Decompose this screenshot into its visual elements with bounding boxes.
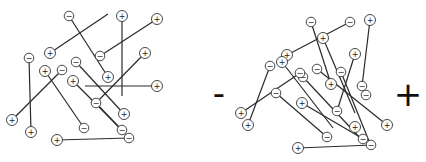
svg-text:−: − [314,65,321,74]
right-negative-charge-icon: − [357,81,367,91]
left-positive-charge-icon: + [103,72,114,83]
svg-text:−: − [26,54,33,63]
left-panel-bonds [12,14,157,140]
right-positive-charge-icon: + [350,49,361,60]
svg-text:−: − [97,52,104,61]
svg-text:+: + [54,136,61,145]
svg-text:+: + [352,123,359,132]
right-negative-charge-icon: − [322,132,332,142]
right-negative-charge-icon: − [271,88,281,98]
left-negative-charge-icon: − [64,11,74,21]
left-positive-charge-icon: + [119,109,130,120]
svg-text:+: + [42,67,49,76]
svg-text:+: + [47,49,54,58]
svg-text:−: − [297,69,304,78]
right-negative-charge-icon: − [265,61,275,71]
right-negative-charge-icon: − [306,17,316,27]
right-bond-line [282,62,333,128]
svg-text:+: + [28,128,35,137]
right-positive-charge-icon: + [326,79,337,90]
right-positive-charge-icon: + [236,108,247,119]
svg-text:+: + [245,121,252,130]
svg-text:+: + [142,49,149,58]
right-bond-line [298,145,372,148]
svg-text:+: + [154,15,161,24]
left-bond-line [29,58,31,132]
left-negative-charge-icon: − [91,98,101,108]
right-positive-charge-icon: + [382,120,393,131]
right-negative-charge-icon: − [332,106,342,116]
left-negative-charge-icon: − [95,51,105,61]
left-positive-charge-icon: + [152,81,163,92]
left-positive-charge-icon: + [140,48,151,59]
right-bond-line [362,20,370,86]
right-negative-charge-icon: − [312,64,322,74]
left-positive-charge-icon: + [40,66,51,77]
left-bond-line [12,70,62,120]
left-positive-charge-icon: + [52,135,63,146]
svg-text:−: − [308,18,315,27]
svg-text:−: − [126,134,133,143]
left-negative-charge-icon: − [24,53,34,63]
negative-terminal-label: - [213,73,225,113]
left-negative-charge-icon: − [124,133,134,143]
left-negative-charge-icon: − [57,65,67,75]
right-bond-line [311,22,331,84]
right-bond-line [337,54,355,111]
svg-text:+: + [119,12,126,21]
right-negative-charge-icon: − [295,68,305,78]
right-positive-charge-icon: + [365,15,376,26]
svg-text:−: − [324,133,331,142]
right-negative-charge-icon: − [361,90,371,100]
svg-text:+: + [105,73,112,82]
right-negative-charge-icon: − [345,17,355,27]
svg-text:+: + [320,34,327,43]
right-positive-charge-icon: + [277,57,288,68]
svg-text:−: − [267,62,274,71]
svg-text:−: − [73,58,80,67]
right-bond-line [317,69,387,125]
left-bond-line [69,16,108,77]
svg-text:+: + [328,80,335,89]
dipole-diagram: −+++−+−−+−+++−++−−+−+ −−++++−−−−+−+−−−+−… [0,0,426,162]
left-positive-charge-icon: + [68,76,79,87]
left-positive-charge-icon: + [117,11,128,22]
right-positive-charge-icon: + [243,120,254,131]
right-negative-charge-icon: − [358,134,368,144]
right-panel-charges: −−++++−−−−+−+−−−+−++++−−−+ [236,15,393,154]
right-positive-charge-icon: + [318,33,329,44]
svg-text:−: − [93,99,100,108]
right-positive-charge-icon: + [350,122,361,133]
svg-text:−: − [334,107,341,116]
svg-text:−: − [363,91,370,100]
svg-text:+: + [70,77,77,86]
svg-text:−: − [273,89,280,98]
right-negative-charge-icon: − [336,67,346,77]
right-positive-charge-icon: + [297,98,308,109]
svg-text:−: − [368,141,375,150]
svg-text:+: + [299,99,306,108]
svg-text:+: + [295,144,302,153]
svg-text:−: − [338,68,345,77]
left-positive-charge-icon: + [152,14,163,25]
left-positive-charge-icon: + [45,48,56,59]
left-positive-charge-icon: + [26,127,37,138]
left-negative-charge-icon: − [71,57,81,67]
svg-text:−: − [359,82,366,91]
svg-text:−: − [360,135,367,144]
left-positive-charge-icon: + [7,115,18,126]
svg-text:+: + [9,116,16,125]
right-bond-line [241,73,300,113]
svg-text:+: + [352,50,359,59]
svg-text:+: + [238,109,245,118]
svg-text:−: − [81,124,88,133]
svg-text:+: + [154,82,161,91]
svg-text:−: − [119,126,126,135]
left-negative-charge-icon: − [79,123,89,133]
right-negative-charge-icon: − [366,140,376,150]
svg-text:+: + [121,110,128,119]
left-bond-line [57,138,129,140]
svg-text:+: + [279,58,286,67]
svg-text:−: − [66,12,73,21]
left-bond-line [50,14,108,53]
